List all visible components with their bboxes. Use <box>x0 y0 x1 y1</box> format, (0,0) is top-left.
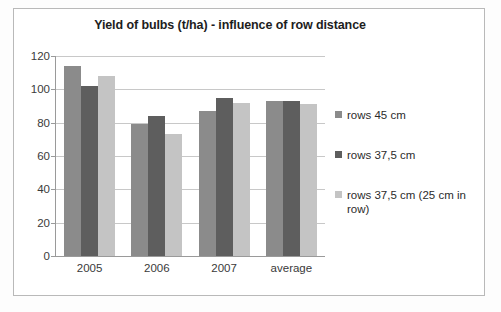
y-tick-label: 100 <box>20 83 50 95</box>
bar[interactable] <box>300 104 317 256</box>
legend-item[interactable]: rows 37,5 cm (25 cm in row) <box>335 188 483 216</box>
bar-group <box>199 56 250 256</box>
plot-area <box>56 56 325 256</box>
y-tick-label: 0 <box>20 250 50 262</box>
x-tick-label: 2007 <box>211 262 237 274</box>
legend-label: rows 37,5 cm <box>347 148 415 162</box>
legend-item[interactable]: rows 45 cm <box>335 108 483 122</box>
y-tick-label: 80 <box>20 117 50 129</box>
bar[interactable] <box>165 134 182 256</box>
bar-group <box>64 56 115 256</box>
bar[interactable] <box>64 66 81 256</box>
chart-figure: Yield of bulbs (t/ha) - influence of row… <box>0 0 501 312</box>
bar[interactable] <box>98 76 115 256</box>
bar[interactable] <box>148 116 165 256</box>
y-tick-mark <box>51 56 56 57</box>
legend-label: rows 37,5 cm (25 cm in row) <box>347 188 483 216</box>
x-tick-label: average <box>271 262 313 274</box>
y-tick-mark <box>51 256 56 257</box>
x-axis-line <box>55 256 325 257</box>
y-tick-mark <box>51 223 56 224</box>
y-tick-label: 40 <box>20 183 50 195</box>
y-tick-mark <box>51 123 56 124</box>
chart-legend: rows 45 cmrows 37,5 cmrows 37,5 cm (25 c… <box>335 108 483 242</box>
legend-item[interactable]: rows 37,5 cm <box>335 148 483 162</box>
bar[interactable] <box>81 86 98 256</box>
legend-swatch-icon <box>335 111 342 118</box>
bar[interactable] <box>216 98 233 256</box>
bar[interactable] <box>266 101 283 256</box>
y-tick-label: 60 <box>20 150 50 162</box>
bar-group <box>266 56 317 256</box>
legend-swatch-icon <box>335 191 342 198</box>
y-tick-mark <box>51 89 56 90</box>
legend-swatch-icon <box>335 151 342 158</box>
x-axis-labels: 200520062007average <box>56 262 325 282</box>
y-tick-label: 120 <box>20 50 50 62</box>
chart-title: Yield of bulbs (t/ha) - influence of row… <box>20 18 440 32</box>
bar[interactable] <box>283 101 300 256</box>
y-tick-mark <box>51 189 56 190</box>
x-tick-label: 2006 <box>144 262 170 274</box>
y-tick-mark <box>51 156 56 157</box>
legend-label: rows 45 cm <box>347 108 406 122</box>
y-axis-labels: 020406080100120 <box>18 56 50 256</box>
x-tick-label: 2005 <box>77 262 103 274</box>
bar-group <box>131 56 182 256</box>
bar[interactable] <box>199 111 216 256</box>
y-tick-label: 20 <box>20 217 50 229</box>
bar[interactable] <box>233 103 250 256</box>
bar[interactable] <box>131 124 148 256</box>
